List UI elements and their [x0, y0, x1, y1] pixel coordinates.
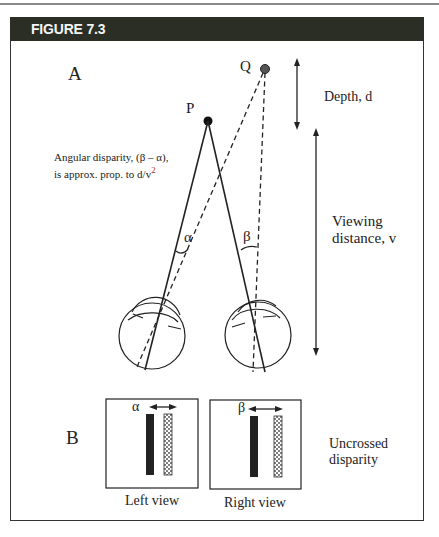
alpha-angle-label: α [184, 229, 192, 246]
right-eye [225, 300, 291, 368]
angular-disparity-note: Angular disparity, (β – α), is approx. p… [54, 151, 169, 181]
left-view-solid-bar [146, 414, 154, 475]
left-view-label: Left view [125, 493, 179, 509]
uncrossed-disparity-caption: Uncrossed disparity [329, 436, 388, 468]
panel-a-label: A [68, 63, 82, 85]
viewing-distance-label: Viewing distance, v [332, 213, 396, 247]
panel-b-label: B [66, 427, 79, 449]
right-view-beta: β [238, 400, 245, 416]
right-view-label: Right view [224, 495, 286, 511]
depth-label: Depth, d [324, 89, 372, 105]
beta-angle-label: β [243, 228, 251, 245]
right-view-solid-bar [250, 416, 258, 477]
point-q-label: Q [240, 58, 251, 75]
point-q-dot [261, 65, 270, 74]
right-view-textured-bar [274, 416, 282, 477]
left-view-textured-bar [164, 414, 172, 475]
point-p-label: P [186, 100, 194, 117]
left-view-alpha: α [132, 399, 139, 415]
